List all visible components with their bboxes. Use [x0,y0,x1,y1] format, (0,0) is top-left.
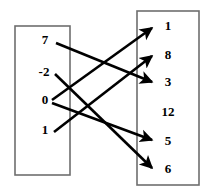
mapping-diagram: 7-2011831256 [0,0,210,196]
right-set-box [137,11,199,185]
right-element-5: 5 [165,133,172,148]
diagram-canvas: 7-2011831256 [0,0,210,196]
left-element--2: -2 [39,64,50,79]
right-element-3: 3 [165,74,172,89]
label-layer: 7-2011831256 [39,18,175,176]
left-element-0: 0 [42,92,49,107]
left-element-7: 7 [42,32,49,47]
right-element-12: 12 [162,104,175,119]
right-element-8: 8 [165,47,172,62]
right-element-6: 6 [165,161,172,176]
right-element-1: 1 [165,18,172,33]
left-element-1: 1 [42,122,49,137]
